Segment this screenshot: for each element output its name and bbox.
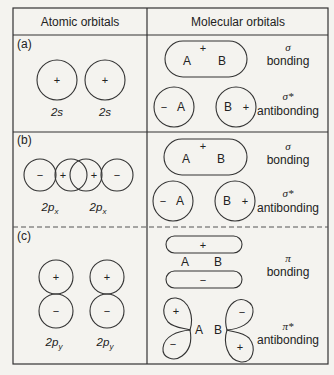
orbital-sign: +	[237, 341, 243, 353]
atom-label-b: B	[223, 194, 231, 208]
atom-label-a: A	[183, 54, 191, 68]
orbital-label: 2px	[89, 201, 108, 216]
orbital-sign: −	[200, 274, 206, 286]
orbital-label: 2s	[50, 106, 63, 118]
orbital-sign: +	[104, 271, 110, 283]
bonding-label: bonding	[267, 153, 310, 167]
orbital-label: 2s	[98, 106, 111, 118]
orbital-sign: +	[200, 140, 206, 152]
orbital-sign: +	[173, 305, 179, 317]
orbital-sign: −	[53, 305, 59, 317]
pi-star-lobe-left-lower	[163, 330, 191, 359]
sigma-star-lobe-right	[216, 87, 256, 127]
orbital-label: 2py	[96, 336, 115, 351]
orbital-sign: −	[160, 195, 166, 207]
orbital-sign: −	[161, 101, 167, 113]
atom-label-b: B	[218, 54, 226, 68]
orbital-sign: +	[200, 42, 206, 54]
orbital-label: 2py	[45, 336, 64, 351]
orbital-sign: +	[200, 239, 206, 251]
orbital-label: 2px	[41, 201, 60, 216]
orbital-sign: +	[60, 169, 66, 181]
atom-label-b: B	[214, 255, 222, 269]
orbital-sign: +	[91, 169, 97, 181]
atom-label-a: A	[176, 194, 184, 208]
row-c: (c) + − + − 2py 2py + A B − π bonding + …	[17, 229, 319, 362]
atom-label-a: A	[195, 323, 203, 337]
orbital-sign: +	[53, 271, 59, 283]
orbital-sign: +	[102, 74, 108, 86]
orbital-sign: −	[239, 306, 245, 318]
atom-label-b: B	[217, 152, 225, 166]
antibonding-label: antibonding	[257, 104, 319, 118]
header-atomic-orbitals: Atomic orbitals	[41, 15, 120, 29]
row-label-a: (a)	[17, 37, 32, 51]
pi-star-symbol: π*	[282, 320, 294, 332]
pi-symbol: π	[285, 252, 291, 264]
atom-label-a: A	[182, 152, 190, 166]
bonding-label: bonding	[267, 54, 310, 68]
header-molecular-orbitals: Molecular orbitals	[191, 15, 285, 29]
atom-label-a: A	[181, 255, 189, 269]
bonding-label: bonding	[267, 265, 310, 279]
atom-label-a: A	[177, 100, 185, 114]
sigma-symbol: σ	[285, 140, 291, 152]
orbital-sign: +	[243, 101, 249, 113]
row-a: (a) + + 2s 2s + A B σ bonding − A B + σ*…	[17, 37, 319, 127]
sigma-symbol: σ	[285, 41, 291, 53]
orbital-sign: +	[242, 195, 248, 207]
row-b: (b) − + + − 2px 2px + A B σ bonding − A …	[17, 133, 319, 221]
sigma-star-symbol: σ*	[283, 90, 294, 102]
orbital-sign: −	[114, 169, 120, 181]
atom-label-b: B	[224, 100, 232, 114]
antibonding-label: antibonding	[257, 201, 319, 215]
orbital-sign: −	[37, 169, 43, 181]
orbital-sign: −	[104, 305, 110, 317]
atom-label-b: B	[214, 323, 222, 337]
sigma-star-symbol: σ*	[283, 187, 294, 199]
orbital-sign: −	[170, 338, 176, 350]
orbital-sign: +	[54, 74, 60, 86]
sigma-star-lobe-right	[215, 181, 255, 221]
row-label-c: (c)	[17, 229, 31, 243]
row-label-b: (b)	[17, 133, 32, 147]
antibonding-label: antibonding	[257, 333, 319, 347]
molecular-orbital-diagram: Atomic orbitals Molecular orbitals (a) +…	[0, 0, 334, 375]
